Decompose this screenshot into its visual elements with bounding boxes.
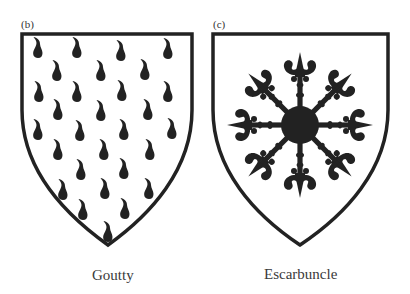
heraldry-artwork [0, 0, 410, 294]
panel-label-b: (b) [21, 19, 34, 30]
caption-goutty: Goutty [92, 268, 134, 283]
shield-goutty [22, 34, 192, 245]
panel-label-c: (c) [213, 19, 225, 30]
caption-escarbuncle: Escarbuncle [264, 267, 337, 282]
escarbuncle-boss [281, 106, 319, 144]
escarbuncle-charge [227, 52, 373, 198]
heraldry-figure: (b) (c) Goutty Escarbuncle [0, 0, 410, 294]
shield-escarbuncle [213, 34, 388, 245]
